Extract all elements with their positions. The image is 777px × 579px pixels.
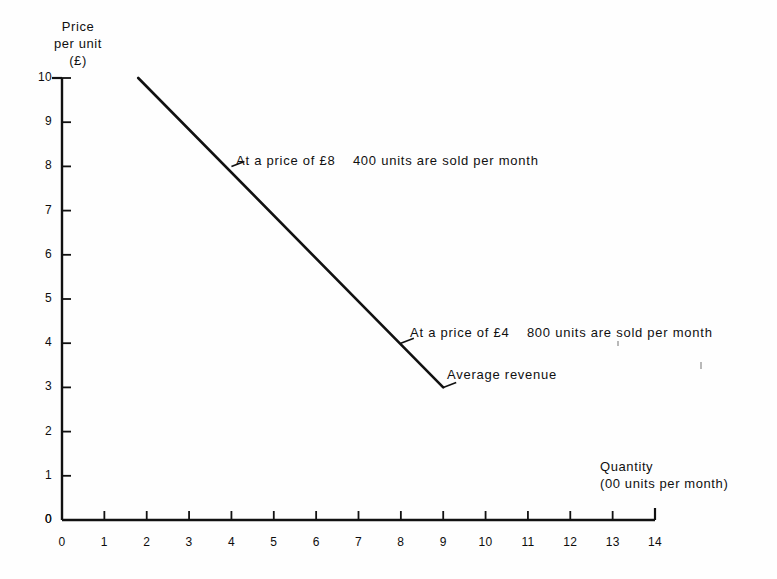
y-tick-label: 7 (26, 203, 52, 217)
x-tick-label: 2 (135, 535, 159, 549)
scan-speck (700, 362, 702, 369)
average-revenue-line (138, 78, 443, 387)
tick-marks (62, 78, 655, 520)
annotation-high-price: At a price of £8 400 units are sold per … (236, 153, 539, 168)
x-tick-label: 5 (262, 535, 286, 549)
y-tick-label: 10 (26, 70, 52, 84)
annotation-low-price: At a price of £4 800 units are sold per … (410, 325, 713, 340)
x-tick-label: 11 (516, 535, 540, 549)
x-tick-label: 13 (601, 535, 625, 549)
x-tick-label: 0 (50, 535, 74, 549)
x-tick-label: 12 (558, 535, 582, 549)
annotation-leader (443, 382, 456, 387)
average-revenue-curve-label: Average revenue (447, 367, 557, 382)
y-tick-label: 9 (26, 114, 52, 128)
y-tick-label: 5 (26, 291, 52, 305)
x-tick-label: 8 (389, 535, 413, 549)
y-tick-label: 2 (26, 424, 52, 438)
x-tick-label: 9 (431, 535, 455, 549)
y-tick-label: 1 (26, 468, 52, 482)
x-tick-label: 7 (347, 535, 371, 549)
y-tick-label: 4 (26, 335, 52, 349)
data-series-lines (138, 78, 443, 387)
x-tick-label: 4 (219, 535, 243, 549)
y-tick-label: 8 (26, 158, 52, 172)
annotation-leader-lines (231, 161, 456, 387)
x-tick-label: 3 (177, 535, 201, 549)
origin-label: 0 (26, 512, 52, 526)
x-tick-label: 14 (643, 535, 667, 549)
x-tick-label: 10 (474, 535, 498, 549)
plot-area (0, 0, 777, 579)
chart-canvas: Price per unit (£) Quantity (00 units pe… (0, 0, 777, 579)
x-tick-label: 1 (92, 535, 116, 549)
axes (52, 78, 655, 520)
x-tick-label: 6 (304, 535, 328, 549)
y-tick-label: 6 (26, 247, 52, 261)
scan-speck (617, 341, 619, 346)
y-tick-label: 3 (26, 379, 52, 393)
